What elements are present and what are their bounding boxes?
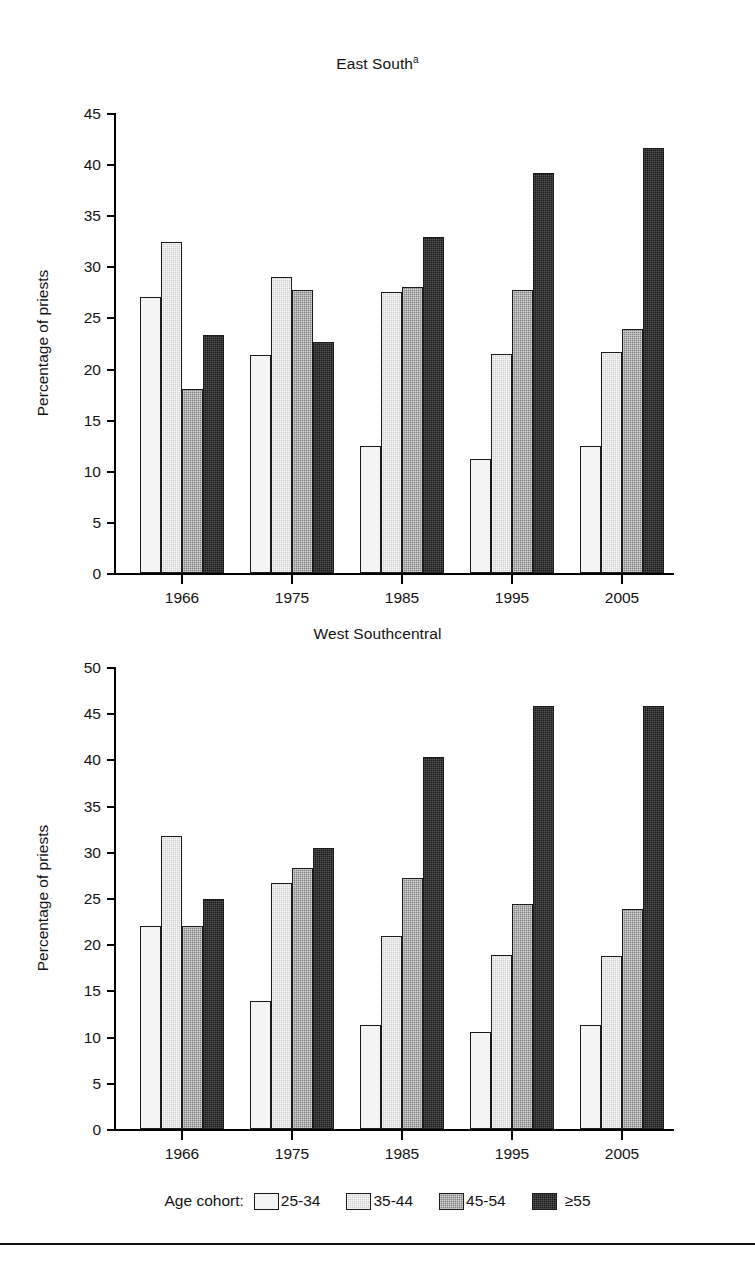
bar — [250, 355, 271, 573]
bar — [491, 354, 512, 573]
plot-area-east-south: 05101520253035404519661975198519952005 — [114, 113, 654, 573]
chart-title-east-south: East Southa — [0, 55, 755, 73]
bottom-divider — [0, 1243, 755, 1245]
bar — [182, 389, 203, 573]
y-axis-tick — [107, 573, 114, 575]
legend-label: 25-34 — [281, 1192, 321, 1210]
bar — [622, 329, 643, 573]
x-axis-tick — [291, 575, 293, 584]
bar — [470, 1032, 491, 1129]
bar — [512, 904, 533, 1129]
bar — [643, 148, 664, 573]
y-axis-tick-label: 35 — [56, 207, 101, 225]
bar — [402, 878, 423, 1129]
x-axis-tick-label: 1966 — [165, 1145, 199, 1163]
x-axis-line — [114, 1129, 674, 1131]
y-axis-tick — [107, 471, 114, 473]
x-axis-tick — [511, 1131, 513, 1140]
x-axis-tick-label: 1985 — [385, 589, 419, 607]
y-axis-tick — [107, 522, 114, 524]
x-axis-tick — [621, 575, 623, 584]
y-axis-label-east: Percentage of priests — [34, 270, 52, 416]
x-axis-tick — [291, 1131, 293, 1140]
legend-label: 35-44 — [373, 1192, 413, 1210]
y-axis-label-west: Percentage of priests — [34, 825, 52, 971]
y-axis-tick — [107, 215, 114, 217]
bar — [423, 237, 444, 573]
y-axis-line — [114, 667, 116, 1130]
y-axis-tick — [107, 667, 114, 669]
y-axis-tick — [107, 944, 114, 946]
bar — [381, 292, 402, 573]
legend-item: 25-34 — [254, 1192, 321, 1210]
bar — [470, 459, 491, 573]
bar — [580, 1025, 601, 1129]
y-axis-tick — [107, 898, 114, 900]
y-axis-tick-label: 45 — [56, 705, 101, 723]
x-axis-tick — [401, 1131, 403, 1140]
x-axis-tick — [181, 575, 183, 584]
plot-area-west-southcentral: 0510152025303540455019661975198519952005 — [114, 667, 654, 1129]
y-axis-tick-label: 25 — [56, 309, 101, 327]
y-axis-tick-label: 25 — [56, 890, 101, 908]
bar — [360, 1025, 381, 1129]
chart-title-text: East South — [336, 55, 413, 72]
bar — [292, 868, 313, 1129]
bar — [580, 446, 601, 573]
bar — [381, 936, 402, 1129]
x-axis-tick-label: 2005 — [605, 589, 639, 607]
bar — [643, 706, 664, 1129]
bar — [182, 926, 203, 1129]
chart-title-text: West Southcentral — [313, 625, 441, 642]
bar — [313, 848, 334, 1129]
y-axis-tick-label: 35 — [56, 798, 101, 816]
y-axis-tick — [107, 806, 114, 808]
chart-title-superscript: a — [413, 54, 419, 65]
x-axis-tick — [401, 575, 403, 584]
bar — [292, 290, 313, 573]
y-axis-tick — [107, 713, 114, 715]
y-axis-tick-label: 0 — [56, 1121, 101, 1139]
bar — [203, 899, 224, 1129]
y-axis-tick — [107, 317, 114, 319]
y-axis-tick-label: 5 — [56, 514, 101, 532]
x-axis-tick-label: 1995 — [495, 589, 529, 607]
bar — [140, 297, 161, 573]
bar — [140, 926, 161, 1129]
bar — [360, 446, 381, 573]
x-axis-tick-label: 1975 — [275, 589, 309, 607]
bar — [533, 706, 554, 1129]
legend-title: Age cohort: — [165, 1192, 244, 1210]
y-axis-tick-label: 15 — [56, 412, 101, 430]
chart-panel-east-south: East Southa Percentage of priests 051015… — [0, 40, 755, 610]
y-axis-tick-label: 45 — [56, 105, 101, 123]
x-axis-tick-label: 1975 — [275, 1145, 309, 1163]
bar — [271, 883, 292, 1129]
y-axis-tick-label: 10 — [56, 463, 101, 481]
y-axis-tick — [107, 113, 114, 115]
legend-label: 45-54 — [466, 1192, 506, 1210]
chart-legend: Age cohort: 25-3435-4445-54≥55 — [0, 1186, 755, 1216]
x-axis-tick-label: 1966 — [165, 589, 199, 607]
bar — [601, 956, 622, 1129]
y-axis-tick-label: 30 — [56, 844, 101, 862]
y-axis-tick-label: 10 — [56, 1029, 101, 1047]
legend-label: ≥55 — [565, 1192, 591, 1210]
bar — [402, 287, 423, 573]
x-axis-tick-label: 1985 — [385, 1145, 419, 1163]
y-axis-line — [114, 113, 116, 574]
y-axis-tick-label: 0 — [56, 565, 101, 583]
y-axis-tick — [107, 990, 114, 992]
bar — [533, 173, 554, 573]
y-axis-tick — [107, 420, 114, 422]
bar — [161, 836, 182, 1129]
y-axis-tick — [107, 369, 114, 371]
y-axis-tick — [107, 852, 114, 854]
bar — [161, 242, 182, 573]
bar — [622, 909, 643, 1129]
chart-panel-west-southcentral: West Southcentral Percentage of priests … — [0, 610, 755, 1160]
y-axis-tick-label: 40 — [56, 751, 101, 769]
x-axis-line — [114, 573, 674, 575]
y-axis-tick-label: 15 — [56, 982, 101, 1000]
legend-swatch-white-open — [254, 1193, 279, 1210]
